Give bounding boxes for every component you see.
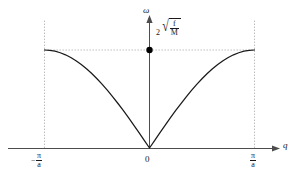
fraction-f-over-M: f M <box>170 20 179 38</box>
x-tick-label-right: π a <box>250 152 256 170</box>
radical-group: √ f M <box>160 18 181 38</box>
zone-center-max-point-marker <box>146 47 152 53</box>
y-axis-arrowhead <box>146 15 152 23</box>
origin-tick-label: 0 <box>145 155 150 164</box>
dispersion-relation-figure: ω q 0 − π a π a 2 √ f M <box>0 0 297 179</box>
fraction-denominator: a <box>250 161 256 169</box>
fraction-denominator: M <box>170 29 179 37</box>
radical-sign: √ <box>162 18 169 38</box>
fraction-pi-over-a-left: π a <box>36 152 42 170</box>
x-axis-arrowhead <box>272 145 280 151</box>
fraction-pi-over-a-right: π a <box>250 152 256 170</box>
max-frequency-annotation: 2 √ f M <box>156 18 181 38</box>
minus-sign: − <box>31 156 36 165</box>
x-tick-label-left: − π a <box>31 152 42 170</box>
x-axis-label: q <box>283 141 288 150</box>
fraction-denominator: a <box>36 161 42 169</box>
y-axis-label: ω <box>143 6 149 15</box>
radicand: f M <box>169 18 181 38</box>
